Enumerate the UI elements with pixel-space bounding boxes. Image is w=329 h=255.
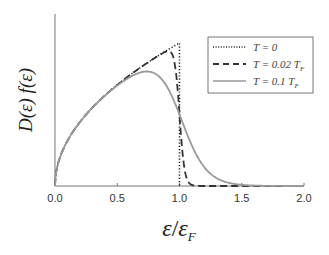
x-axis-label: ε/εF	[162, 215, 197, 244]
x-tick-label: 1.5	[234, 192, 249, 204]
x-tick-label: 0.5	[110, 192, 125, 204]
x-tick-label: 2.0	[296, 192, 311, 204]
x-tick-label: 0.0	[47, 192, 62, 204]
x-tick-label: 1.0	[172, 192, 187, 204]
legend-label-t0: T = 0	[253, 41, 278, 53]
y-axis-label: D(ε) f(ε)	[15, 68, 37, 133]
chart: 0.00.51.01.52.0 T = 0 T = 0.02 TF T = 0.…	[0, 0, 329, 255]
series-t-0	[55, 43, 180, 186]
legend: T = 0 T = 0.02 TF T = 0.1 TF	[208, 37, 313, 93]
